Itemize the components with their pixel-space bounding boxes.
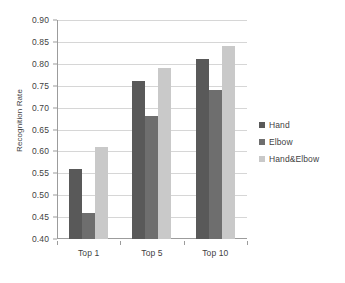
y-axis-tick-label: 0.60 xyxy=(32,146,49,156)
bar xyxy=(209,90,222,239)
y-axis-tick-label: 0.45 xyxy=(32,212,49,222)
y-axis-tick-label: 0.40 xyxy=(32,234,49,244)
bar xyxy=(196,59,209,239)
y-axis-tick-labels: 0.400.450.500.550.600.650.700.750.800.85… xyxy=(0,20,57,239)
x-axis-tick-label: Top 5 xyxy=(141,248,162,258)
y-axis-tick-label: 0.80 xyxy=(32,59,49,69)
bar xyxy=(95,147,108,239)
legend-item: Elbow xyxy=(259,135,319,149)
legend-label: Hand xyxy=(269,120,290,130)
x-axis-tick-mark xyxy=(120,241,121,245)
chart-legend: HandElbowHand&Elbow xyxy=(259,118,319,169)
x-axis-tick-mark xyxy=(57,241,58,245)
y-axis-tick-label: 0.85 xyxy=(32,37,49,47)
y-axis-tick-label: 0.50 xyxy=(32,190,49,200)
legend-label: Hand&Elbow xyxy=(269,154,319,164)
y-axis-tick-label: 0.90 xyxy=(32,15,49,25)
bar xyxy=(82,213,95,239)
x-axis-tick-label: Top 1 xyxy=(78,248,99,258)
legend-label: Elbow xyxy=(269,137,293,147)
legend-item: Hand&Elbow xyxy=(259,152,319,166)
x-axis-tick-label: Top 10 xyxy=(202,248,228,258)
y-axis-tick-label: 0.70 xyxy=(32,103,49,113)
legend-item: Hand xyxy=(259,118,319,132)
bars-layer xyxy=(57,20,247,239)
y-axis-tick-label: 0.55 xyxy=(32,168,49,178)
bar-group xyxy=(120,20,183,239)
legend-swatch-icon xyxy=(259,156,265,162)
bar xyxy=(69,169,82,239)
bar xyxy=(222,46,235,239)
x-axis-tick-labels: Top 1Top 5Top 10 xyxy=(57,241,247,261)
y-axis-tick-label: 0.65 xyxy=(32,125,49,135)
bar-group xyxy=(184,20,247,239)
legend-swatch-icon xyxy=(259,139,265,145)
x-axis-tick-mark xyxy=(184,241,185,245)
x-axis-tick-mark xyxy=(247,241,248,245)
bar xyxy=(158,68,171,239)
legend-swatch-icon xyxy=(259,122,265,128)
y-axis-tick-label: 0.75 xyxy=(32,81,49,91)
gridline xyxy=(58,239,247,240)
recognition-rate-bar-chart: Recognition Rate 0.400.450.500.550.600.6… xyxy=(0,0,345,283)
bar xyxy=(145,116,158,239)
bar-group xyxy=(57,20,120,239)
bar xyxy=(132,81,145,239)
